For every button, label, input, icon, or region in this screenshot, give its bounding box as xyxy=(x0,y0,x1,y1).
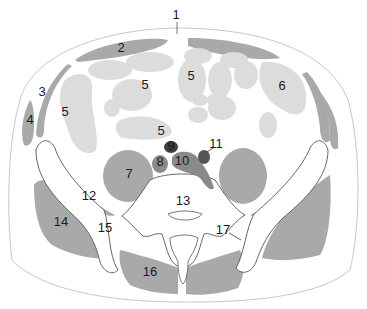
label-10: 10 xyxy=(175,153,189,168)
label-15: 15 xyxy=(98,220,112,235)
label-12: 12 xyxy=(82,188,96,203)
label-13: 13 xyxy=(176,193,190,208)
label-2: 2 xyxy=(117,40,124,55)
label-11: 11 xyxy=(209,136,223,151)
label-1: 1 xyxy=(172,7,179,22)
label-5-left: 5 xyxy=(61,104,68,119)
label-3: 3 xyxy=(38,84,45,99)
label-9: 9 xyxy=(167,138,174,153)
label-5-lower: 5 xyxy=(157,123,164,138)
vessel-11 xyxy=(198,150,210,164)
label-16: 16 xyxy=(143,264,157,279)
label-4: 4 xyxy=(26,112,33,127)
label-7: 7 xyxy=(125,166,132,181)
label-5-center: 5 xyxy=(187,68,194,83)
label-5-center-left: 5 xyxy=(141,77,148,92)
label-8: 8 xyxy=(156,154,163,169)
label-6: 6 xyxy=(278,78,285,93)
label-14: 14 xyxy=(54,214,68,229)
label-17: 17 xyxy=(216,222,230,237)
pelvis-cross-section-diagram: 1 2 3 4 5 5 5 5 6 7 8 9 10 11 12 13 14 1… xyxy=(0,0,367,309)
